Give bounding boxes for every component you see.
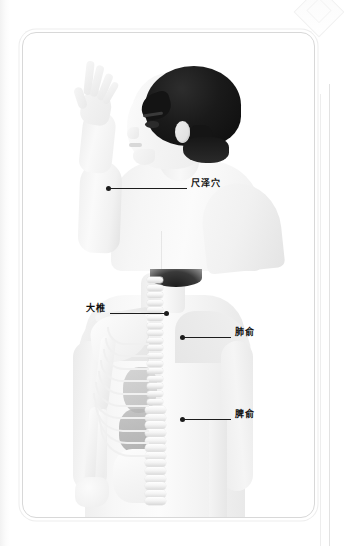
vertebra (147, 323, 163, 329)
page-gutter-rule-secondary (320, 94, 321, 546)
vertebra (147, 383, 163, 389)
vertebra (147, 353, 163, 359)
panel-back-skeleton: 大椎 肺俞 脾俞 (23, 269, 314, 517)
figure-frame: 尺泽穴 (22, 32, 315, 518)
lips-shape (129, 143, 142, 147)
leader-line (183, 419, 231, 420)
leader-line (109, 188, 187, 189)
acupoint-label-chize: 尺泽穴 (191, 179, 222, 188)
nose-shape (127, 127, 139, 139)
page-edge-shadow (0, 0, 10, 546)
page-gutter-rule (329, 84, 330, 546)
vertebra (147, 300, 163, 306)
vertebra (147, 361, 163, 367)
vertebra (147, 330, 163, 336)
vertebra (145, 497, 166, 505)
acupoint-label-feishu: 肺俞 (235, 328, 255, 337)
acupoint-label-dazhui: 大椎 (86, 304, 106, 313)
right-waist-shading (209, 419, 227, 517)
vertebra (147, 391, 163, 397)
chin-shape (133, 149, 155, 165)
eye-shape (145, 121, 159, 128)
vertebra (147, 292, 163, 298)
spine-column (147, 277, 163, 503)
vertebra (147, 399, 163, 405)
sternum-shading (161, 231, 162, 269)
raised-upper-arm (77, 160, 122, 253)
vertebra (145, 467, 166, 475)
vertebra (147, 338, 163, 344)
vertebra (147, 277, 163, 283)
acupoint-label-pishu: 脾俞 (235, 410, 255, 419)
vertebra (145, 482, 166, 490)
hair-nape (183, 137, 229, 163)
ear-shape (175, 121, 190, 143)
vertebra (147, 285, 163, 291)
vertebra (147, 315, 163, 321)
vertebra (147, 368, 163, 374)
panel-boy-profile: 尺泽穴 (23, 33, 314, 269)
vertebra (147, 376, 163, 382)
leader-line (183, 337, 231, 338)
vertebra (147, 345, 163, 351)
hand-bones (75, 477, 109, 507)
leader-line (110, 313, 166, 314)
